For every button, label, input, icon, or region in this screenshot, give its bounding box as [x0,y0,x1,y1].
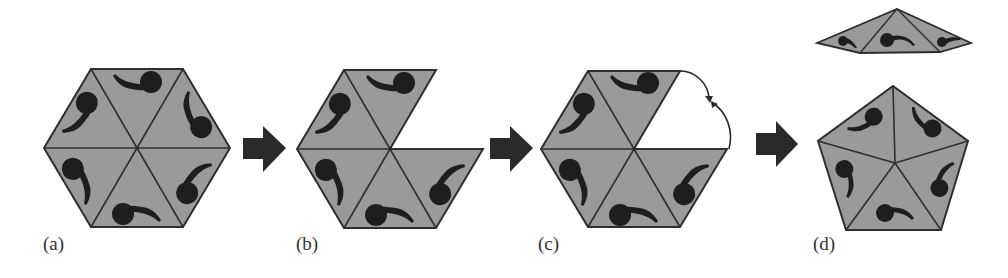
panel-label-a: (a) [43,233,64,255]
arrow-right-icon [756,121,798,167]
arrow-right-icon [243,126,286,172]
hexagon-a [44,69,230,227]
panel-label-c: (c) [538,233,559,255]
rotation-arrows [680,71,731,149]
hexagon-b [297,70,483,228]
panel-label-b: (b) [296,233,318,255]
hexagon-c [541,71,727,227]
panel-label-d: (d) [813,233,835,255]
figure-canvas: (a) (b) (c) (d) [0,0,1008,278]
flattened-triangle [817,9,971,53]
arrow-right-icon [490,126,533,172]
diagram-svg [0,0,1008,278]
pentagon-d [818,86,968,230]
